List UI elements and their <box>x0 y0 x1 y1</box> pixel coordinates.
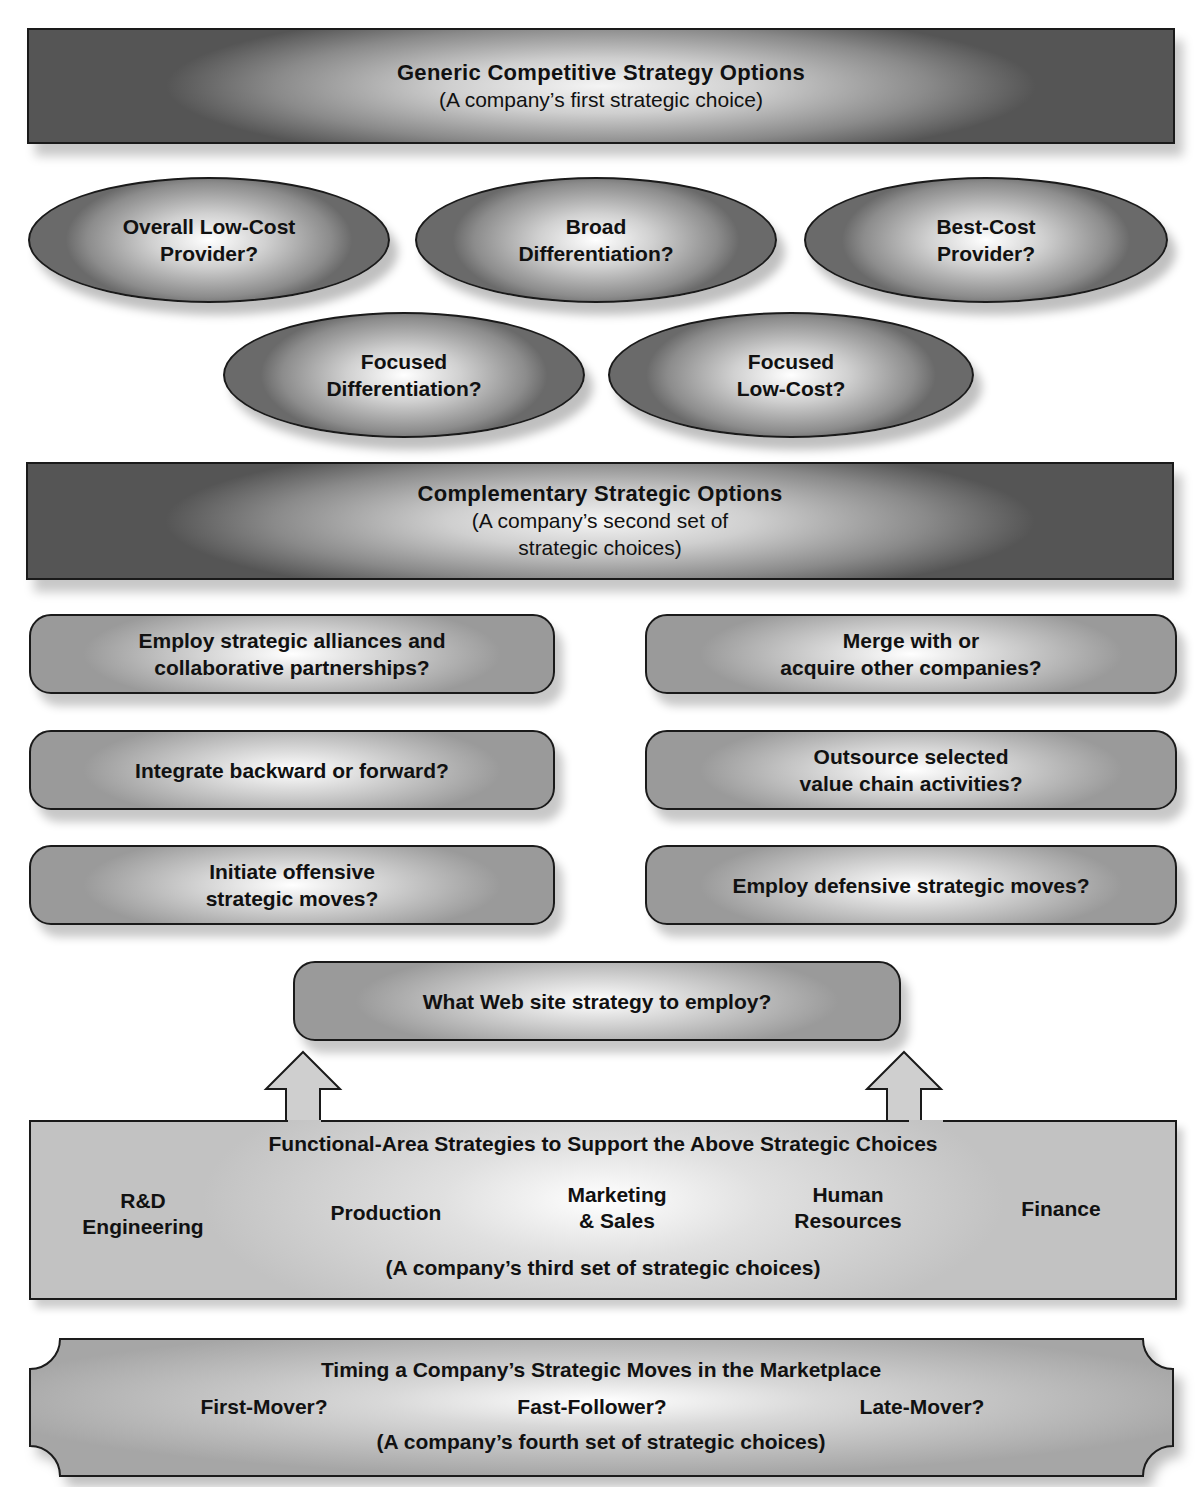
pill-offensive-moves: Initiate offensivestrategic moves? <box>29 845 555 925</box>
oval-label-line2: Low-Cost? <box>737 375 845 402</box>
oval-focused-differentiation: FocusedDifferentiation? <box>223 312 585 438</box>
area-label-line1: Human <box>794 1182 901 1208</box>
functional-area-box: Functional-Area Strategies to Support th… <box>29 1120 1177 1300</box>
area-label: Finance <box>1021 1196 1100 1222</box>
area-human-resources: HumanResources <box>794 1182 901 1234</box>
pill-strategic-alliances: Employ strategic alliances andcollaborat… <box>29 614 555 694</box>
oval-label-line2: Provider? <box>936 240 1035 267</box>
complementary-strategy-title: Complementary Strategic Options <box>417 481 782 507</box>
oval-label-line1: Broad <box>518 213 673 240</box>
oval-label-line1: Best-Cost <box>936 213 1035 240</box>
pill-defensive-moves: Employ defensive strategic moves? <box>645 845 1177 925</box>
timing-option-first-mover: First-Mover? <box>200 1395 327 1419</box>
area-label-line2: Engineering <box>82 1214 203 1240</box>
timing-title: Timing a Company’s Strategic Moves in th… <box>29 1358 1173 1382</box>
complementary-subtitle-line1: (A company’s second set of <box>472 507 728 534</box>
area-label-line2: & Sales <box>567 1208 666 1234</box>
timing-subtitle: (A company’s fourth set of strategic cho… <box>29 1430 1173 1454</box>
pill-label-line2: strategic moves? <box>206 885 379 912</box>
generic-strategy-title: Generic Competitive Strategy Options <box>397 60 805 86</box>
generic-strategy-banner: Generic Competitive Strategy Options (A … <box>27 28 1175 144</box>
pill-label-line2: value chain activities? <box>800 770 1023 797</box>
oval-focused-low-cost: FocusedLow-Cost? <box>608 312 974 438</box>
area-finance: Finance <box>1021 1196 1100 1222</box>
area-label-line1: Marketing <box>567 1182 666 1208</box>
area-label-line1: R&D <box>82 1188 203 1214</box>
timing-plaque: Timing a Company’s Strategic Moves in th… <box>29 1338 1173 1448</box>
area-rd-engineering: R&DEngineering <box>82 1188 203 1240</box>
complementary-strategy-banner: Complementary Strategic Options (A compa… <box>26 462 1174 580</box>
up-arrow-icon-left <box>262 1050 344 1122</box>
oval-overall-low-cost: Overall Low-CostProvider? <box>28 177 390 303</box>
timing-option-fast-follower: Fast-Follower? <box>517 1395 666 1419</box>
oval-label-line1: Overall Low-Cost <box>123 213 296 240</box>
oval-label-line1: Focused <box>737 348 845 375</box>
functional-areas-row: R&DEngineering Production Marketing& Sal… <box>31 1182 1175 1242</box>
area-marketing-sales: Marketing& Sales <box>567 1182 666 1234</box>
oval-best-cost: Best-CostProvider? <box>804 177 1168 303</box>
area-label: Production <box>331 1200 442 1226</box>
pill-label: Integrate backward or forward? <box>135 757 449 784</box>
pill-label: Employ defensive strategic moves? <box>732 872 1089 899</box>
oval-broad-differentiation: BroadDifferentiation? <box>415 177 777 303</box>
pill-label: What Web site strategy to employ? <box>423 988 772 1015</box>
pill-integrate: Integrate backward or forward? <box>29 730 555 810</box>
pill-label-line1: Outsource selected <box>800 743 1023 770</box>
pill-merge-acquire: Merge with oracquire other companies? <box>645 614 1177 694</box>
oval-label-line2: Differentiation? <box>518 240 673 267</box>
up-arrow-icon-right <box>863 1050 945 1122</box>
pill-label-line1: Employ strategic alliances and <box>139 627 446 654</box>
oval-label-line2: Differentiation? <box>326 375 481 402</box>
pill-label-line1: Merge with or <box>780 627 1041 654</box>
functional-area-title: Functional-Area Strategies to Support th… <box>31 1132 1175 1156</box>
pill-label-line2: acquire other companies? <box>780 654 1041 681</box>
timing-option-late-mover: Late-Mover? <box>860 1395 985 1419</box>
pill-label-line1: Initiate offensive <box>206 858 379 885</box>
generic-strategy-subtitle: (A company’s first strategic choice) <box>439 86 763 113</box>
area-label-line2: Resources <box>794 1208 901 1234</box>
pill-web-strategy: What Web site strategy to employ? <box>293 961 901 1041</box>
pill-outsource: Outsource selectedvalue chain activities… <box>645 730 1177 810</box>
pill-label-line2: collaborative partnerships? <box>139 654 446 681</box>
complementary-subtitle-line2: strategic choices) <box>518 534 681 561</box>
oval-label-line1: Focused <box>326 348 481 375</box>
oval-label-line2: Provider? <box>123 240 296 267</box>
functional-area-subtitle: (A company’s third set of strategic choi… <box>31 1256 1175 1280</box>
area-production: Production <box>331 1200 442 1226</box>
